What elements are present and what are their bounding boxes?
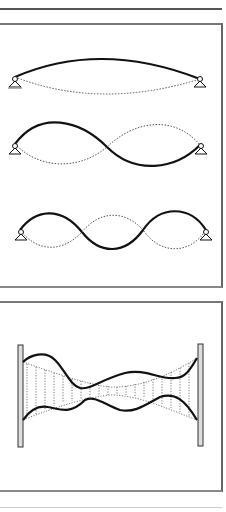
bottom-rule	[0, 507, 222, 508]
pin-support-icon	[9, 144, 21, 155]
envelope-panel	[0, 301, 223, 492]
mode-1-wave	[15, 59, 200, 94]
mode-3-wave	[20, 211, 206, 249]
modes-diagram	[0, 0, 226, 290]
pin-support-icon	[200, 230, 212, 241]
pin-support-icon	[15, 230, 27, 241]
mode-2-wave	[15, 122, 200, 166]
pin-support-icon	[8, 77, 22, 89]
